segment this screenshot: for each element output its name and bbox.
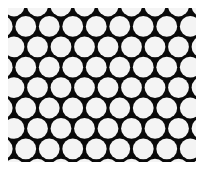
- packed-circle: [156, 16, 177, 37]
- packed-circle: [109, 98, 130, 119]
- packed-circle: [39, 16, 60, 37]
- packed-circle: [39, 57, 60, 78]
- packed-circle: [156, 57, 177, 78]
- packed-circle: [121, 36, 142, 57]
- packed-circle: [15, 16, 36, 37]
- packed-circle: [180, 138, 201, 159]
- packed-circle: [86, 98, 107, 119]
- packed-circle: [74, 77, 95, 98]
- packed-circle: [121, 77, 142, 98]
- packed-circle: [133, 57, 154, 78]
- packed-circle: [121, 118, 142, 139]
- packed-circle: [74, 36, 95, 57]
- packed-circle: [180, 98, 201, 119]
- circle-packing-diagram: [0, 0, 205, 170]
- packed-circle: [51, 77, 72, 98]
- packed-circle: [109, 57, 130, 78]
- packed-circle: [39, 138, 60, 159]
- packed-circle: [62, 98, 83, 119]
- packed-circle: [27, 118, 48, 139]
- packed-circle: [86, 57, 107, 78]
- packed-circle: [15, 98, 36, 119]
- packed-circle: [156, 138, 177, 159]
- packed-circle: [86, 16, 107, 37]
- packed-circle: [156, 98, 177, 119]
- packed-circle: [39, 98, 60, 119]
- packed-circle: [168, 118, 189, 139]
- packed-circle: [133, 16, 154, 37]
- packed-circle: [133, 138, 154, 159]
- packed-circle: [62, 138, 83, 159]
- packed-circle: [15, 138, 36, 159]
- packed-circle: [62, 57, 83, 78]
- packed-circle: [168, 36, 189, 57]
- packed-circle: [4, 118, 25, 139]
- packed-circle: [51, 118, 72, 139]
- packed-circle: [51, 36, 72, 57]
- packed-circle: [74, 118, 95, 139]
- packed-circle: [145, 36, 166, 57]
- packed-circle: [133, 98, 154, 119]
- packed-circle: [4, 36, 25, 57]
- packed-circle: [98, 118, 119, 139]
- packed-circle: [109, 138, 130, 159]
- packed-circle: [145, 77, 166, 98]
- packed-circle: [62, 16, 83, 37]
- packed-circle: [86, 138, 107, 159]
- packed-circle: [27, 77, 48, 98]
- packed-circle: [15, 57, 36, 78]
- packed-circle: [180, 16, 201, 37]
- packed-circle: [168, 77, 189, 98]
- packed-circle: [27, 36, 48, 57]
- circle-grid: [0, 0, 205, 170]
- packed-circle: [98, 36, 119, 57]
- packed-circle: [180, 57, 201, 78]
- packed-circle: [4, 77, 25, 98]
- packed-circle: [145, 118, 166, 139]
- packed-circle: [109, 16, 130, 37]
- packed-circle: [98, 77, 119, 98]
